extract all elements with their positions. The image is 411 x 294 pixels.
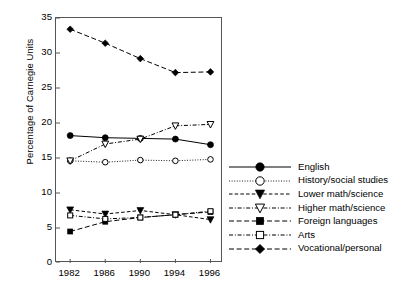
legend-marker-icon — [228, 201, 292, 215]
legend-marker-filled-circle — [256, 163, 264, 171]
data-point-filled-diamond — [207, 69, 214, 76]
legend-item[interactable]: English — [228, 160, 408, 174]
data-point-filled-diamond — [102, 40, 109, 47]
data-point-open-square — [138, 215, 143, 220]
data-point-open-circle — [102, 159, 108, 165]
legend-item[interactable]: Lower math/science — [228, 187, 408, 201]
series-vocational-personal — [67, 26, 214, 76]
data-point-filled-circle — [67, 133, 73, 139]
data-point-open-down-triangle — [207, 122, 214, 128]
x-tick-label: 1990 — [119, 268, 159, 278]
series-line — [70, 29, 210, 72]
legend-item[interactable]: Higher math/science — [228, 201, 408, 215]
chart-legend: EnglishHistory/social studiesLower math/… — [228, 160, 408, 255]
plot-series-svg — [56, 18, 223, 263]
legend-marker-filled-square — [256, 218, 263, 225]
data-point-open-square — [208, 209, 213, 214]
data-point-filled-diamond — [172, 69, 179, 76]
legend-item-label: Foreign languages — [292, 216, 377, 226]
legend-marker-icon — [228, 228, 292, 242]
data-point-open-down-triangle — [102, 141, 109, 147]
legend-item-label: History/social studies — [292, 175, 388, 185]
data-point-filled-square — [68, 229, 73, 234]
data-point-open-circle — [138, 157, 144, 163]
data-point-filled-diamond — [137, 55, 144, 62]
plot-area — [55, 17, 222, 262]
data-point-filled-down-triangle — [137, 208, 144, 214]
x-tick-label: 1982 — [49, 268, 89, 278]
x-tick-label: 1994 — [154, 268, 194, 278]
legend-item-label: Arts — [292, 230, 315, 240]
legend-marker-icon — [228, 174, 292, 188]
legend-item[interactable]: Vocational/personal — [228, 242, 408, 256]
x-tick-label: 1996 — [189, 268, 229, 278]
data-point-filled-circle — [172, 136, 178, 142]
data-point-filled-circle — [207, 142, 213, 148]
data-point-filled-down-triangle — [207, 217, 214, 223]
legend-marker-icon — [228, 160, 292, 174]
chart-figure: Percentage of Carnegie Units 05101520253… — [0, 0, 411, 294]
data-point-open-square — [103, 216, 108, 221]
legend-item-label: English — [292, 162, 329, 172]
data-point-open-circle — [208, 157, 214, 163]
x-tick-label: 1986 — [84, 268, 124, 278]
legend-marker-open-circle — [256, 176, 264, 184]
data-point-open-square — [68, 213, 73, 218]
data-point-open-circle — [173, 158, 179, 164]
legend-item-label: Vocational/personal — [292, 243, 382, 253]
legend-marker-icon — [228, 214, 292, 228]
data-point-filled-circle — [102, 135, 108, 141]
data-point-filled-diamond — [67, 26, 74, 33]
legend-item-label: Higher math/science — [292, 203, 385, 213]
legend-marker-icon — [228, 242, 292, 256]
legend-item[interactable]: History/social studies — [228, 174, 408, 188]
legend-item[interactable]: Arts — [228, 228, 408, 242]
legend-marker-open-square — [256, 231, 263, 238]
series-history-social-studies — [67, 157, 213, 165]
data-point-open-square — [173, 212, 178, 217]
legend-marker-icon — [228, 187, 292, 201]
legend-item-label: Lower math/science — [292, 189, 383, 199]
legend-item[interactable]: Foreign languages — [228, 214, 408, 228]
legend-marker-filled-diamond — [255, 244, 264, 253]
